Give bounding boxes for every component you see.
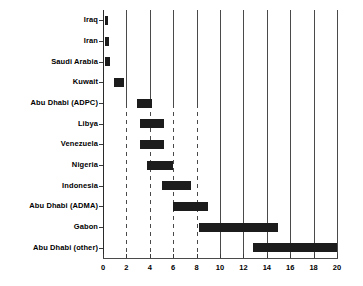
bar [140, 140, 163, 149]
x-tick-label: 0 [93, 264, 113, 272]
category-label: Libya [78, 120, 98, 128]
bar [105, 57, 110, 66]
x-tick-label: 12 [233, 264, 253, 272]
x-tick-label: 4 [140, 264, 160, 272]
x-tick-20 [337, 254, 338, 258]
x-tick-4 [150, 254, 151, 258]
bar [162, 181, 191, 190]
bar [105, 37, 109, 46]
x-tick-label: 20 [327, 264, 347, 272]
gridline-solid-6 [173, 10, 174, 104]
y-tick [99, 20, 103, 21]
category-label: Abu Dhabi (ADPC) [31, 99, 98, 107]
x-tick-8 [197, 254, 198, 258]
y-axis-line [103, 10, 104, 259]
bar [253, 243, 337, 252]
y-tick [99, 144, 103, 145]
y-tick [99, 186, 103, 187]
gridline-solid-4 [150, 10, 151, 104]
gridline-solid-12 [243, 10, 244, 258]
gridline-solid-20 [337, 10, 338, 258]
bar [105, 16, 109, 25]
category-label: Nigeria [72, 161, 98, 169]
gridline-solid-16 [290, 10, 291, 258]
y-tick [99, 124, 103, 125]
x-tick-0 [103, 254, 104, 258]
x-tick-label: 10 [210, 264, 230, 272]
gridline-solid-8 [197, 10, 198, 104]
x-tick-label: 16 [280, 264, 300, 272]
category-label: Iran [84, 37, 98, 45]
y-tick [99, 82, 103, 83]
y-tick [99, 248, 103, 249]
category-label: Abu Dhabi (ADMA) [29, 202, 98, 210]
bar [137, 99, 152, 108]
gridline-solid-2 [126, 10, 127, 104]
category-label: Kuwait [73, 78, 98, 86]
bar [147, 161, 173, 170]
x-tick-10 [220, 254, 221, 258]
x-tick-label: 2 [116, 264, 136, 272]
x-tick-label: 14 [257, 264, 277, 272]
gridline-solid-10 [220, 10, 221, 258]
y-tick [99, 41, 103, 42]
x-axis-line [103, 258, 338, 259]
category-label: Abu Dhabi (other) [33, 244, 98, 252]
x-tick-6 [173, 254, 174, 258]
category-label: Indonesia [62, 182, 98, 190]
x-tick-label: 8 [187, 264, 207, 272]
category-label: Gabon [74, 223, 98, 231]
y-tick [99, 165, 103, 166]
gridline-dashed-8 [197, 104, 198, 258]
bar [173, 202, 208, 211]
y-tick [99, 62, 103, 63]
category-label: Saudi Arabia [51, 58, 98, 66]
y-tick [99, 227, 103, 228]
y-tick [99, 103, 103, 104]
bar [114, 78, 125, 87]
category-label: Venezuela [61, 140, 98, 148]
x-tick-12 [243, 254, 244, 258]
x-tick-16 [290, 254, 291, 258]
x-tick-label: 6 [163, 264, 183, 272]
bar [140, 119, 163, 128]
x-tick-18 [314, 254, 315, 258]
x-tick-label: 18 [304, 264, 324, 272]
bar [199, 223, 279, 232]
y-tick [99, 206, 103, 207]
x-tick-14 [267, 254, 268, 258]
gridline-dashed-2 [126, 104, 127, 258]
x-tick-2 [126, 254, 127, 258]
gridline-solid-18 [314, 10, 315, 258]
range-bar-chart: IraqIranSaudi ArabiaKuwaitAbu Dhabi (ADP… [0, 0, 363, 286]
category-label: Iraq [84, 16, 98, 24]
gridline-solid-14 [267, 10, 268, 258]
